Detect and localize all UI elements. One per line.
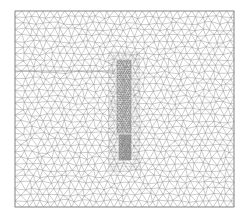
finite-element-mesh (0, 0, 248, 219)
